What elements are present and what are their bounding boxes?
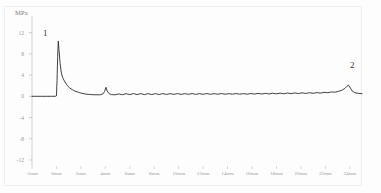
peak-2-annotation: 2 — [350, 60, 355, 70]
series-line-pressure — [32, 41, 362, 96]
chart-page: MPa 12840-4-8-12 -2mm0mm2mm4mm6mm8mm10mm… — [0, 0, 381, 193]
peak-1-annotation: 1 — [43, 28, 48, 38]
plot-area — [0, 0, 381, 193]
data-series-group — [32, 41, 362, 96]
